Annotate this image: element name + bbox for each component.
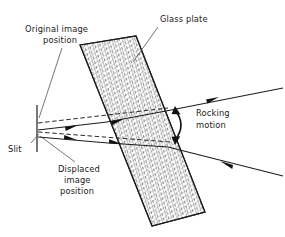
displaced-image-label-line2: image [64,175,91,185]
rocking-motion-label-line2: motion [196,120,226,130]
diagram-canvas: Glass plate Original image position Rock… [0,0,285,237]
upper-ray-arrowhead-right [206,97,219,103]
slit-label: Slit [8,144,22,154]
rocking-arc [175,110,181,140]
displaced-image-label-line3: position [60,186,94,196]
glass-plate-hatching-cross [80,36,205,226]
rocking-motion-label-line1: Rocking [196,108,230,118]
glass-plate-label: Glass plate [160,14,208,24]
rocking-arrowhead-top [172,106,181,115]
original-image-leader [39,48,62,118]
optics-diagram-svg: Glass plate Original image position Rock… [0,0,285,237]
original-image-label-line1: Original image [25,24,88,34]
slit-leader [31,134,39,143]
displaced-image-label-line1: Displaced [58,164,100,174]
glass-plate [80,36,205,226]
original-image-label-line2: position [43,35,77,45]
rocking-motion-arrow [172,106,182,145]
